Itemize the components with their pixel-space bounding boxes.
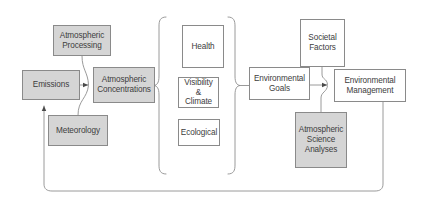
node-meteorology[interactable]: Meteorology [48, 115, 108, 146]
node-atmospheric-processing-label: Atmospheric Processing [59, 31, 105, 50]
diagram-canvas: Emissions Atmospheric Processing Meteoro… [0, 0, 427, 204]
node-atmospheric-concentrations-label: Atmospheric Concentrations [96, 75, 152, 94]
node-meteorology-label: Meteorology [55, 126, 101, 136]
node-environmental-goals[interactable]: Environmental Goals [249, 67, 310, 100]
brace-left-effects-group [154, 17, 166, 174]
node-environmental-goals-label: Environmental Goals [253, 74, 306, 93]
node-ecological[interactable]: Ecological [178, 119, 220, 146]
brace-right-effects-group [228, 17, 240, 174]
node-societal-factors-label: Societal Factors [307, 33, 337, 52]
node-ecological-label: Ecological [180, 128, 218, 138]
node-environmental-management-label: Environmental Management [343, 76, 396, 95]
node-visibility-climate-label: Visibility & Climate [183, 78, 213, 107]
node-emissions-label: Emissions [32, 80, 70, 90]
node-health-label: Health [190, 42, 215, 52]
connector-science-analyses-to-management [321, 86, 328, 112]
node-atmospheric-science-analyses-label: Atmospheric Science Analyses [298, 125, 344, 154]
node-societal-factors[interactable]: Societal Factors [300, 19, 345, 67]
connector-societal-factors-to-management [322, 67, 328, 84]
node-emissions[interactable]: Emissions [22, 70, 80, 100]
node-visibility-climate[interactable]: Visibility & Climate [178, 77, 219, 108]
connector-processing-to-concentrations [82, 56, 89, 85]
node-environmental-management[interactable]: Environmental Management [334, 69, 406, 102]
node-atmospheric-processing[interactable]: Atmospheric Processing [53, 25, 111, 56]
node-atmospheric-concentrations[interactable]: Atmospheric Concentrations [93, 67, 155, 103]
node-health[interactable]: Health [182, 25, 224, 68]
node-atmospheric-science-analyses[interactable]: Atmospheric Science Analyses [295, 112, 347, 168]
